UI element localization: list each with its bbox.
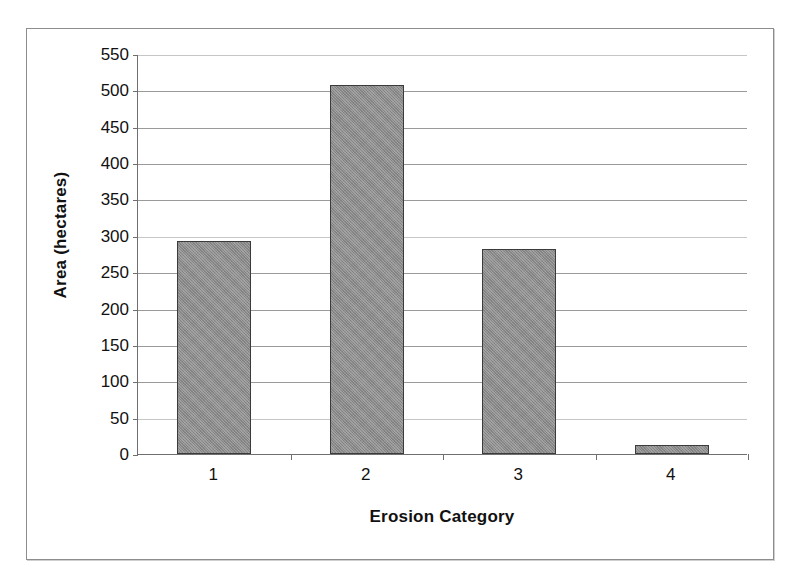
y-axis-tick-label: 550 xyxy=(65,45,129,65)
x-axis-tick-mark xyxy=(291,454,292,460)
bar-slot xyxy=(138,55,291,454)
y-axis-tick-label: 500 xyxy=(65,81,129,101)
bars-layer xyxy=(138,55,747,454)
bar[interactable] xyxy=(330,85,404,454)
x-axis-tick-mark xyxy=(748,454,749,460)
bar[interactable] xyxy=(482,249,556,454)
plot-area xyxy=(137,55,747,455)
y-axis-tick-mark xyxy=(133,346,138,347)
bar-slot xyxy=(291,55,444,454)
figure-frame: Area (hectares) 050100150200250300350400… xyxy=(26,28,774,560)
y-axis-tick-label: 250 xyxy=(65,263,129,283)
y-axis-tick-label: 100 xyxy=(65,372,129,392)
x-axis-tick-mark xyxy=(443,454,444,460)
x-axis-tick-mark xyxy=(596,454,597,460)
y-axis-tick-label: 150 xyxy=(65,336,129,356)
y-axis-tick-mark xyxy=(133,91,138,92)
y-axis-tick-label: 400 xyxy=(65,154,129,174)
y-axis-tick-mark xyxy=(133,200,138,201)
bar[interactable] xyxy=(635,445,709,454)
y-axis-tick-mark xyxy=(133,128,138,129)
bar-chart: Area (hectares) 050100150200250300350400… xyxy=(27,29,773,559)
y-axis-tick-mark xyxy=(133,164,138,165)
bar-slot xyxy=(443,55,596,454)
y-axis-tick-mark xyxy=(133,419,138,420)
x-axis-tick-labels: 1234 xyxy=(137,465,747,493)
y-axis-tick-label: 200 xyxy=(65,300,129,320)
x-axis-tick-label: 3 xyxy=(514,465,523,485)
y-axis-tick-label: 0 xyxy=(65,445,129,465)
bar-slot xyxy=(596,55,749,454)
x-axis-tick-label: 1 xyxy=(209,465,218,485)
y-axis-tick-mark xyxy=(133,55,138,56)
y-axis-tick-labels: 050100150200250300350400450500550 xyxy=(65,55,129,455)
y-axis-tick-label: 450 xyxy=(65,118,129,138)
x-axis-tick-label: 4 xyxy=(666,465,675,485)
y-axis-tick-mark xyxy=(133,273,138,274)
y-axis-tick-label: 50 xyxy=(65,409,129,429)
x-axis-tick-label: 2 xyxy=(361,465,370,485)
bar[interactable] xyxy=(177,241,251,454)
y-axis-tick-mark xyxy=(133,382,138,383)
y-axis-tick-mark xyxy=(133,237,138,238)
y-axis-tick-mark xyxy=(133,310,138,311)
x-axis-title: Erosion Category xyxy=(137,507,747,527)
y-axis-tick-mark xyxy=(133,455,138,456)
y-axis-tick-label: 300 xyxy=(65,227,129,247)
y-axis-tick-label: 350 xyxy=(65,190,129,210)
